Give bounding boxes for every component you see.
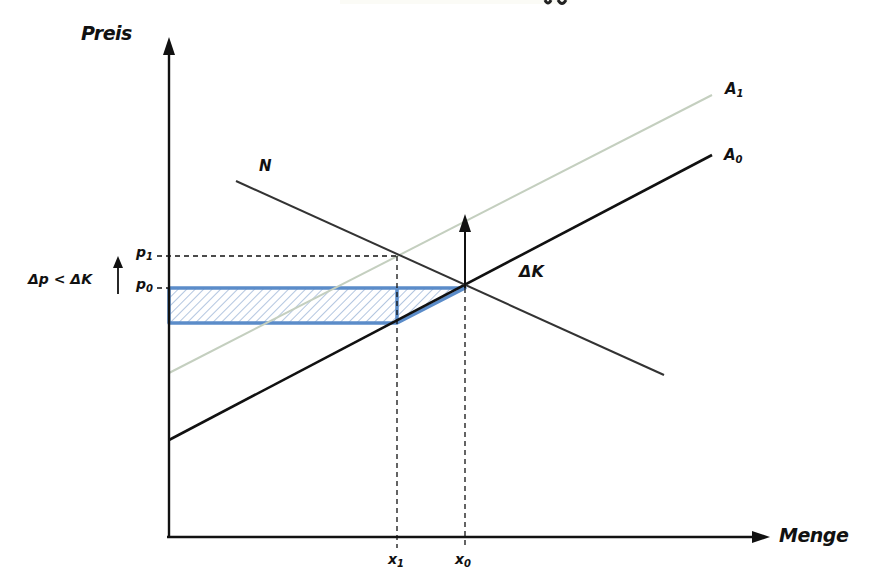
x1-tick-label: x1 (388, 551, 404, 569)
supply-a1-sub: 1 (737, 88, 744, 99)
p0-tick-label: p0 (136, 276, 153, 294)
demand-curve-n (236, 181, 664, 375)
delta-p-arrow-icon (113, 256, 123, 294)
x0-main: x (455, 551, 464, 567)
x-axis (167, 531, 770, 543)
supply-a0-main: A (724, 146, 736, 164)
x1-main: x (388, 551, 397, 567)
p1-main: p (136, 244, 146, 260)
supply-curve-a1 (169, 95, 712, 373)
p1-tick-label: p1 (136, 244, 153, 262)
market-diagram (0, 0, 876, 581)
x1-sub: 1 (397, 558, 404, 569)
delta-k-label: ΔK (519, 262, 544, 281)
x-axis-label: Menge (779, 524, 848, 546)
p1-sub: 1 (146, 251, 153, 262)
x0-tick-label: x0 (455, 551, 471, 569)
supply-a1-main: A (725, 80, 737, 98)
title-fragment (340, 0, 570, 4)
p0-sub: 0 (146, 283, 153, 294)
shaded-area (169, 288, 465, 323)
p0-main: p (136, 276, 146, 292)
delta-k-arrow (459, 214, 471, 288)
y-axis-label: Preis (81, 22, 132, 44)
supply-a0-label: A0 (724, 146, 743, 165)
demand-curve-label: N (259, 157, 272, 175)
delta-p-label: Δp < ΔK (28, 271, 92, 287)
supply-a0-sub: 0 (736, 154, 743, 165)
supply-a1-label: A1 (725, 80, 744, 99)
x0-sub: 0 (464, 558, 471, 569)
